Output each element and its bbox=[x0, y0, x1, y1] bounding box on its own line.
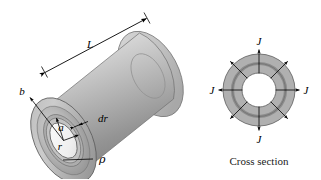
label-element-radius-r: r bbox=[58, 140, 63, 152]
physics-figure: L b a r dr ρ bbox=[0, 0, 321, 179]
label-length-L: L bbox=[86, 38, 93, 50]
label-outer-radius-b: b bbox=[19, 85, 25, 97]
label-element-thickness-dr: dr bbox=[98, 112, 109, 124]
label-resistivity-rho: ρ bbox=[98, 153, 106, 166]
label-current-density-right: J bbox=[304, 84, 310, 96]
cross-section-caption: Cross section bbox=[230, 155, 289, 167]
label-inner-radius-a: a bbox=[58, 121, 64, 133]
label-current-density-top: J bbox=[257, 35, 263, 47]
label-current-density-bottom: J bbox=[257, 133, 263, 145]
label-current-density-left: J bbox=[210, 84, 216, 96]
hollow-cylinder-3d: L b a r dr ρ bbox=[17, 13, 197, 180]
cross-section-diagram: J J J J Cross section bbox=[210, 35, 310, 167]
